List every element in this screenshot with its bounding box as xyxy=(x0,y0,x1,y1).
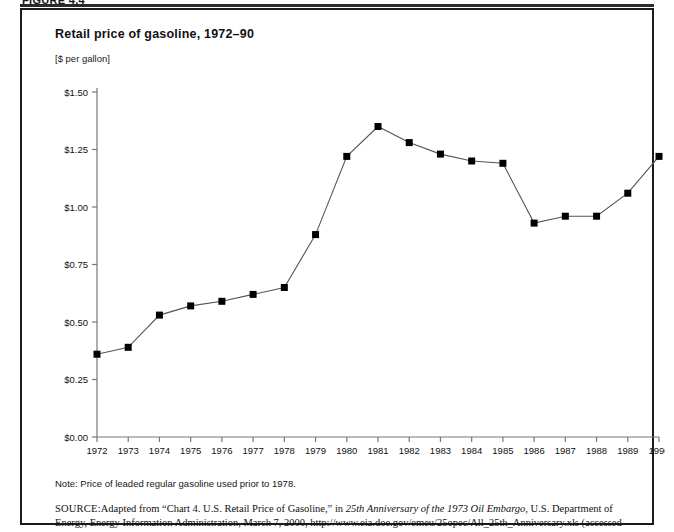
x-axis-tick-label: 1972 xyxy=(86,445,107,456)
chart-note: Note: Price of leaded regular gasoline u… xyxy=(55,478,296,489)
data-point-marker xyxy=(375,123,382,130)
top-divider-rule xyxy=(20,4,654,7)
data-point-marker xyxy=(406,139,413,146)
data-point-marker xyxy=(562,213,569,220)
x-axis-tick-label: 1990 xyxy=(648,445,665,456)
y-axis-tick-label: $0.50 xyxy=(64,317,88,328)
x-axis-tick-label: 1975 xyxy=(180,445,201,456)
data-point-marker xyxy=(343,153,350,160)
x-axis-tick-label: 1977 xyxy=(243,445,264,456)
x-axis-tick-label: 1979 xyxy=(305,445,326,456)
data-point-marker xyxy=(187,302,194,309)
y-axis-tick-label: $1.25 xyxy=(64,144,88,155)
x-axis-tick-label: 1973 xyxy=(118,445,139,456)
data-point-marker xyxy=(593,213,600,220)
data-point-marker xyxy=(218,298,225,305)
x-axis-tick-label: 1982 xyxy=(399,445,420,456)
x-axis-tick-label: 1983 xyxy=(430,445,451,456)
x-axis-tick-label: 1985 xyxy=(492,445,513,456)
figure-root: FIGURE 4.4 Retail price of gasoline, 197… xyxy=(0,0,674,532)
data-point-marker xyxy=(656,153,663,160)
line-chart-svg: $0.00$0.25$0.50$0.75$1.00$1.25$1.5019721… xyxy=(55,80,665,475)
y-axis-unit-label: [$ per gallon] xyxy=(55,53,110,64)
x-axis-tick-label: 1980 xyxy=(336,445,357,456)
x-axis-tick-label: 1986 xyxy=(524,445,545,456)
y-axis-tick-label: $0.75 xyxy=(64,259,88,270)
x-axis-tick-label: 1976 xyxy=(211,445,232,456)
chart-title: Retail price of gasoline, 1972–90 xyxy=(55,27,254,41)
source-text-italic: 25th Anniversary of the 1973 Oil Embargo xyxy=(346,503,526,514)
y-axis-tick-label: $0.25 xyxy=(64,374,88,385)
figure-frame: Retail price of gasoline, 1972–90 [$ per… xyxy=(20,8,654,525)
data-point-marker xyxy=(468,158,475,165)
source-text-part1: Adapted from “Chart 4. U.S. Retail Price… xyxy=(101,503,346,514)
x-axis-tick-label: 1984 xyxy=(461,445,482,456)
data-point-marker xyxy=(499,160,506,167)
x-axis-tick-label: 1981 xyxy=(367,445,388,456)
data-point-marker xyxy=(156,312,163,319)
data-point-marker xyxy=(624,190,631,197)
chart-source: SOURCE:Adapted from “Chart 4. U.S. Retai… xyxy=(55,502,647,532)
x-axis-tick-label: 1987 xyxy=(555,445,576,456)
data-point-marker xyxy=(312,231,319,238)
x-axis-tick-label: 1974 xyxy=(149,445,170,456)
y-axis-tick-label: $0.00 xyxy=(64,432,88,443)
x-axis-tick-label: 1989 xyxy=(617,445,638,456)
data-line xyxy=(97,127,659,355)
x-axis-tick-label: 1988 xyxy=(586,445,607,456)
figure-label: FIGURE 4.4 xyxy=(22,0,85,6)
plot-area: $0.00$0.25$0.50$0.75$1.00$1.25$1.5019721… xyxy=(55,80,665,475)
x-axis-tick-label: 1978 xyxy=(274,445,295,456)
data-point-marker xyxy=(250,291,257,298)
data-point-marker xyxy=(125,344,132,351)
data-point-marker xyxy=(531,220,538,227)
y-axis-tick-label: $1.50 xyxy=(64,87,88,98)
data-point-marker xyxy=(281,284,288,291)
data-point-marker xyxy=(94,351,101,358)
source-label: SOURCE: xyxy=(55,503,101,514)
y-axis-tick-label: $1.00 xyxy=(64,202,88,213)
data-point-marker xyxy=(437,151,444,158)
